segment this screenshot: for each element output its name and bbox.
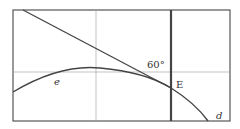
angle-label: 60° — [147, 59, 165, 70]
curve — [13, 68, 208, 122]
curve-d-label: d — [216, 110, 222, 121]
diagram: 60° E e d — [0, 0, 240, 129]
curve-e-label: e — [54, 76, 60, 87]
point-e-label: E — [176, 79, 183, 90]
frame — [13, 10, 230, 121]
